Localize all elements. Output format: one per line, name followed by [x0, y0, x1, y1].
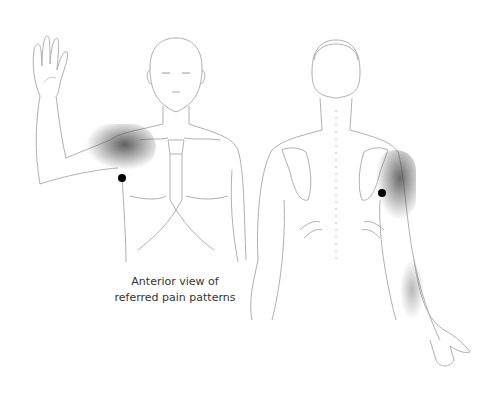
anterior-trigger-point — [118, 174, 126, 182]
anterior-pain-zone — [86, 124, 156, 170]
figure-caption: Anterior view of referred pain patterns — [110, 274, 240, 306]
posterior-figure — [251, 40, 470, 366]
posterior-pain-zone — [376, 150, 416, 220]
anatomy-illustration — [0, 0, 485, 398]
forearm-pain-zone — [400, 260, 424, 320]
back-head-outline — [312, 40, 360, 98]
head-outline — [150, 38, 202, 112]
posterior-trigger-point — [378, 189, 386, 197]
referred-pain-diagram: Anterior view of referred pain patterns — [0, 0, 485, 398]
caption-line-2: referred pain patterns — [110, 290, 240, 306]
caption-line-1: Anterior view of — [110, 274, 240, 290]
